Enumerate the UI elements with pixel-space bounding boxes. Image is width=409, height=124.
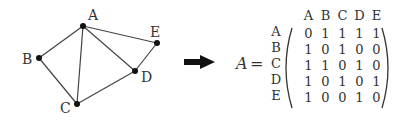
edge-c-d <box>77 71 135 104</box>
edge-a-b <box>39 26 83 58</box>
matrix-cell: 0 <box>317 90 334 105</box>
col-header-d: D <box>351 8 368 23</box>
node-label-d: D <box>141 70 152 84</box>
matrix-cell: 1 <box>351 26 368 41</box>
edge-b-c <box>39 58 77 104</box>
row-header-c: C <box>270 56 282 71</box>
matrix-cell: 1 <box>300 90 317 105</box>
col-header-a: A <box>300 8 317 23</box>
matrix-cell: 1 <box>317 26 334 41</box>
matrix-cell: 1 <box>368 74 385 89</box>
row-header-e: E <box>270 88 282 103</box>
col-header-c: C <box>334 8 351 23</box>
equals-sign: = <box>250 54 263 73</box>
matrix-cell: 0 <box>334 90 351 105</box>
matrix-cell: 0 <box>368 42 385 57</box>
matrix-cell: 1 <box>334 74 351 89</box>
matrix-cell: 0 <box>334 58 351 73</box>
matrix-cell: 1 <box>334 26 351 41</box>
right-arrow-icon <box>184 55 216 69</box>
matrix-name: A <box>236 54 248 73</box>
node-e <box>154 40 160 46</box>
edge-d-e <box>135 43 157 71</box>
row-header-a: A <box>270 24 282 39</box>
matrix-cell: 0 <box>368 90 385 105</box>
node-c <box>74 101 80 107</box>
node-label-a: A <box>88 8 98 22</box>
node-d <box>132 68 138 74</box>
matrix-cell: 1 <box>300 42 317 57</box>
node-a <box>80 23 86 29</box>
row-header-b: B <box>270 40 282 55</box>
node-label-e: E <box>150 25 160 39</box>
node-label-c: C <box>60 101 71 115</box>
col-header-b: B <box>317 8 334 23</box>
row-header-d: D <box>270 72 282 87</box>
matrix-cell: 1 <box>334 42 351 57</box>
matrix-cell: 1 <box>351 90 368 105</box>
edge-a-c <box>77 26 83 104</box>
matrix-cell: 1 <box>300 58 317 73</box>
matrix-cell: 0 <box>351 74 368 89</box>
matrix-cell: 0 <box>351 42 368 57</box>
matrix-cell: 0 <box>300 26 317 41</box>
node-label-b: B <box>22 52 32 66</box>
edge-a-e <box>83 26 157 43</box>
matrix-cell: 1 <box>368 26 385 41</box>
matrix-cell: 1 <box>317 58 334 73</box>
col-header-e: E <box>368 8 385 23</box>
matrix-cell: 0 <box>317 42 334 57</box>
node-b <box>36 55 42 61</box>
matrix-cell: 1 <box>300 74 317 89</box>
edge-a-d <box>83 26 135 71</box>
matrix-cell: 1 <box>351 58 368 73</box>
matrix-cell: 0 <box>317 74 334 89</box>
matrix-cell: 0 <box>368 58 385 73</box>
